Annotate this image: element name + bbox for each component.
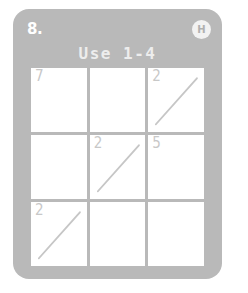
difficulty-badge-letter: H	[197, 25, 205, 35]
difficulty-badge: H	[192, 20, 211, 39]
puzzle-grid-wrapper: 72252	[31, 68, 204, 266]
grid-cell-bottom-center[interactable]	[90, 202, 146, 266]
cell-clue: 7	[35, 69, 44, 85]
cell-clue: 2	[94, 136, 103, 152]
grid-cell-top-right[interactable]: 2	[148, 68, 204, 132]
cell-clue: 2	[35, 203, 44, 219]
puzzle-card: 8. H Use 1-4 72252	[13, 9, 222, 279]
cell-clue: 2	[152, 69, 161, 85]
puzzle-title: Use 1-4	[13, 46, 222, 62]
grid-cell-top-center[interactable]	[90, 68, 146, 132]
grid-cell-middle-right[interactable]: 5	[148, 135, 204, 199]
grid-cell-bottom-right[interactable]	[148, 202, 204, 266]
cell-clue: 5	[152, 136, 161, 152]
puzzle-grid: 72252	[31, 68, 204, 266]
puzzle-number: 8.	[27, 22, 42, 37]
grid-cell-middle-center[interactable]: 2	[90, 135, 146, 199]
grid-cell-middle-left[interactable]	[31, 135, 87, 199]
grid-cell-top-left[interactable]: 7	[31, 68, 87, 132]
grid-cell-bottom-left[interactable]: 2	[31, 202, 87, 266]
